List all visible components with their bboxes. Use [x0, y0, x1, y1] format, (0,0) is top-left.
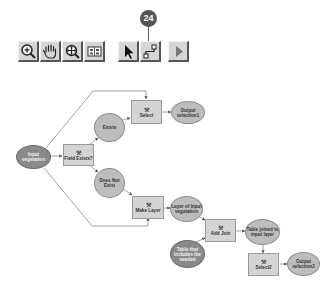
table-that-includes-node[interactable]: Table that includes the needed: [170, 240, 205, 268]
does-not-exist-node[interactable]: Does Not Exist: [94, 168, 125, 198]
node-label: Exists: [103, 125, 117, 130]
exists-node[interactable]: Exists: [94, 113, 125, 142]
node-label: Make Layer: [135, 208, 160, 213]
node-label: Select: [140, 113, 154, 118]
input-vegetation-node[interactable]: Input vegetation: [16, 145, 51, 169]
connector-lines: [0, 0, 334, 281]
node-label: Table joined to input layer: [246, 227, 279, 237]
table-joined-node[interactable]: Table joined to input layer: [245, 219, 280, 245]
output-selection1-node[interactable]: Output selection1: [171, 101, 205, 124]
node-label: Table that includes the needed: [171, 247, 204, 262]
node-label: Does Not Exist: [95, 178, 124, 188]
select-tool[interactable]: ⚒ Select: [131, 100, 162, 124]
output-selection2-node[interactable]: Output selection2: [287, 252, 320, 276]
select2-tool[interactable]: ⚒ Select2: [248, 253, 279, 276]
node-label: Output selection1: [172, 108, 204, 118]
node-label: Input vegetation: [17, 152, 50, 162]
node-label: Select2: [255, 265, 271, 270]
make-layer-tool[interactable]: ⚒ Make Layer: [132, 196, 164, 219]
node-label: Add Join: [211, 231, 231, 236]
node-label: Layer of Input vegetation: [171, 204, 202, 214]
field-exists-tool[interactable]: ⚒ Field Exists?: [63, 144, 94, 166]
add-join-tool[interactable]: ⚒ Add Join: [205, 219, 236, 242]
node-label: Output selection2: [288, 259, 319, 269]
node-label: Field Exists?: [64, 156, 92, 161]
layer-of-input-vegetation-node[interactable]: Layer of Input vegetation: [170, 196, 203, 222]
